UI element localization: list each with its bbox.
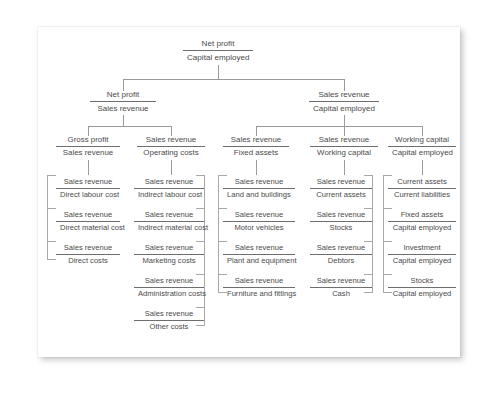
node-denominator: Other costs <box>134 321 204 331</box>
node-numerator: Sales revenue <box>223 277 295 288</box>
bracket-stub <box>383 241 392 242</box>
node-level3-working-capital: Sales revenue Working capital <box>310 136 378 157</box>
node-denominator: Capital employed <box>388 222 456 232</box>
node-denominator: Motor vehicles <box>223 222 295 232</box>
node-level2-asset-turnover: Sales revenue Capital employed <box>309 91 379 113</box>
connector-c5-drop <box>422 160 423 175</box>
node-numerator: Sales revenue <box>137 136 205 147</box>
node-denominator: Fixed assets <box>223 147 289 157</box>
leaf-node: Sales revenue Marketing costs <box>134 244 204 265</box>
leaf-node: Sales revenue Cash <box>310 277 372 298</box>
bracket-stub <box>218 175 227 176</box>
node-level3-operating-costs: Sales revenue Operating costs <box>137 136 205 157</box>
node-numerator: Sales revenue <box>223 244 295 255</box>
node-numerator: Sales revenue <box>310 277 372 288</box>
node-denominator: Operating costs <box>137 147 205 157</box>
connector-l2right-drop <box>344 115 345 126</box>
node-numerator: Net profit <box>90 91 156 102</box>
bracket-column-1 <box>47 175 48 259</box>
leaf-node: Sales revenue Direct material cost <box>56 211 120 232</box>
node-numerator: Investment <box>388 244 456 255</box>
connector-l2left-bus <box>88 126 171 127</box>
node-numerator: Sales revenue <box>134 310 204 321</box>
node-numerator: Sales revenue <box>310 136 378 147</box>
bracket-stub <box>196 208 205 209</box>
node-numerator: Current assets <box>388 178 456 189</box>
bracket-stub <box>383 208 392 209</box>
node-denominator: Indirect material cost <box>134 222 204 232</box>
bracket-stub <box>196 241 205 242</box>
node-denominator: Sales revenue <box>56 147 120 157</box>
node-denominator: Furniture and fittings <box>223 288 295 298</box>
node-level3-fixed-assets: Sales revenue Fixed assets <box>223 136 289 157</box>
node-denominator: Capital employed <box>388 288 456 298</box>
connector-root-bus <box>123 79 344 80</box>
leaf-node: Sales revenue Administration costs <box>134 277 204 298</box>
node-denominator: Direct costs <box>56 255 120 265</box>
node-denominator: Capital employed <box>183 51 253 61</box>
node-denominator: Current liabilities <box>388 189 456 199</box>
node-denominator: Debtors <box>310 255 372 265</box>
bracket-stub <box>196 274 205 275</box>
node-numerator: Net profit <box>183 40 253 51</box>
node-denominator: Direct material cost <box>56 222 120 232</box>
node-level2-net-profit-margin: Net profit Sales revenue <box>90 91 156 113</box>
leaf-node: Sales revenue Debtors <box>310 244 372 265</box>
node-numerator: Sales revenue <box>310 244 372 255</box>
node-denominator: Capital employed <box>388 147 456 157</box>
leaf-node: Sales revenue Direct labour cost <box>56 178 120 199</box>
bracket-stub <box>364 241 373 242</box>
node-numerator: Sales revenue <box>134 211 204 222</box>
node-numerator: Sales revenue <box>309 91 379 102</box>
bracket-stub <box>47 208 56 209</box>
node-level3-gross-margin: Gross profit Sales revenue <box>56 136 120 157</box>
connector-l2left-drop <box>123 115 124 126</box>
leaf-node: Sales revenue Direct costs <box>56 244 120 265</box>
node-numerator: Sales revenue <box>310 211 372 222</box>
node-denominator: Land and buildings <box>223 189 295 199</box>
bracket-stub <box>196 307 205 308</box>
leaf-node: Investment Capital employed <box>388 244 456 265</box>
bracket-stub <box>364 208 373 209</box>
node-denominator: Working capital <box>310 147 378 157</box>
bracket-stub <box>383 274 392 275</box>
node-numerator: Sales revenue <box>134 178 204 189</box>
node-denominator: Stocks <box>310 222 372 232</box>
leaf-node: Sales revenue Indirect material cost <box>134 211 204 232</box>
node-numerator: Sales revenue <box>134 277 204 288</box>
node-numerator: Sales revenue <box>56 178 120 189</box>
node-denominator: Capital employed <box>309 102 379 112</box>
leaf-node: Sales revenue Stocks <box>310 211 372 232</box>
bracket-stub <box>218 241 227 242</box>
leaf-node: Sales revenue Plant and equipment <box>223 244 295 265</box>
node-denominator: Indirect labour cost <box>134 189 204 199</box>
node-root: Net profit Capital employed <box>183 40 253 62</box>
connector-c4-drop <box>344 160 345 175</box>
leaf-node: Sales revenue Furniture and fittings <box>223 277 295 298</box>
bracket-stub <box>364 175 373 176</box>
node-denominator: Current assets <box>310 189 372 199</box>
leaf-node: Current assets Current liabilities <box>388 178 456 199</box>
bracket-stub <box>383 175 392 176</box>
bracket-stub <box>218 274 227 275</box>
node-numerator: Fixed assets <box>388 211 456 222</box>
leaf-node: Sales revenue Current assets <box>310 178 372 199</box>
node-numerator: Sales revenue <box>310 178 372 189</box>
node-numerator: Sales revenue <box>134 244 204 255</box>
leaf-node: Sales revenue Motor vehicles <box>223 211 295 232</box>
leaf-node: Sales revenue Indirect labour cost <box>134 178 204 199</box>
node-level3-working-capital-ratio: Working capital Capital employed <box>388 136 456 157</box>
bracket-stub <box>47 241 56 242</box>
node-denominator: Marketing costs <box>134 255 204 265</box>
node-denominator: Plant and equipment <box>223 255 295 265</box>
node-numerator: Gross profit <box>56 136 120 147</box>
node-denominator: Direct labour cost <box>56 189 120 199</box>
connector-c1-drop <box>88 160 89 175</box>
bracket-column-2 <box>204 175 205 325</box>
leaf-node: Sales revenue Land and buildings <box>223 178 295 199</box>
bracket-stub <box>364 274 373 275</box>
bracket-stub <box>218 208 227 209</box>
node-numerator: Stocks <box>388 277 456 288</box>
ratio-pyramid-diagram: Net profit Capital employed Net profit S… <box>0 0 499 398</box>
bracket-stub <box>47 259 56 260</box>
